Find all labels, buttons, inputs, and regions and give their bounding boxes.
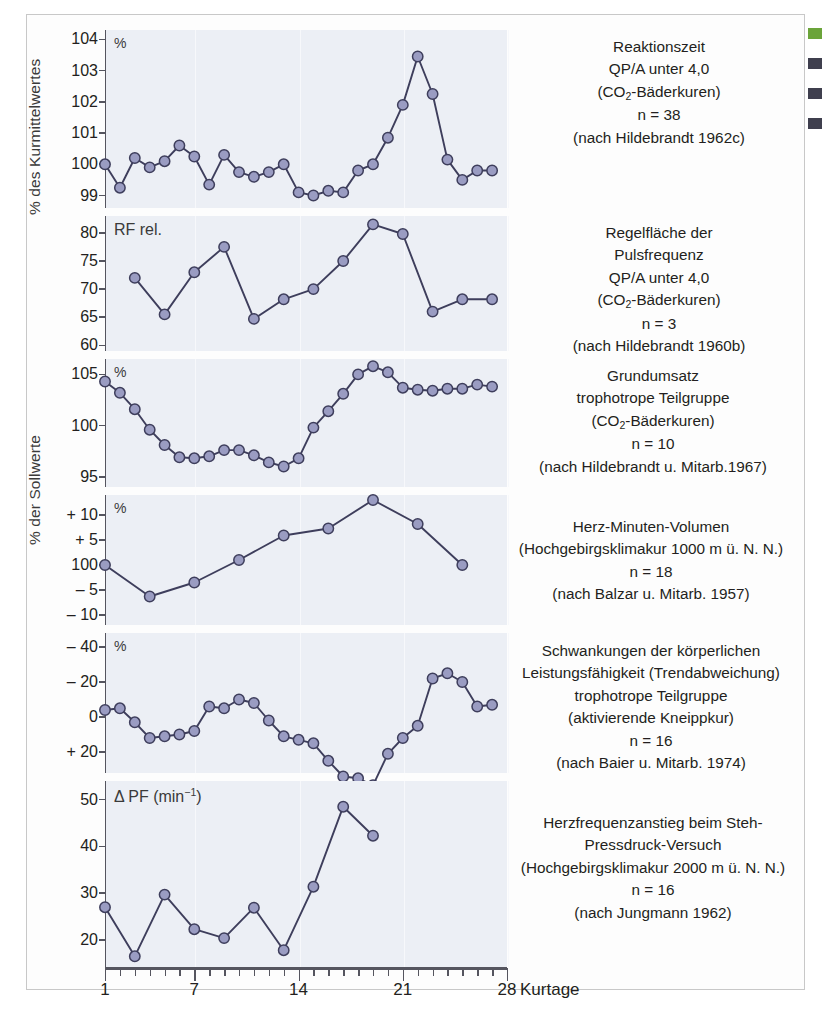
page-edge-strip — [806, 14, 833, 990]
y-tick-label: 99 — [40, 188, 98, 204]
y-tick-label: 20 — [40, 932, 98, 948]
y-tick-mark — [99, 846, 106, 848]
y-tick-label: 30 — [40, 885, 98, 901]
y-tick-label: 70 — [40, 281, 98, 297]
panel-caption: Regelfläche derPulsfrequenzQP/A unter 4,… — [512, 222, 806, 358]
y-tick-mark — [99, 614, 106, 616]
edge-fragment-2 — [808, 58, 822, 69]
y-tick-mark — [99, 316, 106, 318]
x-tick-minor — [373, 968, 374, 976]
y-tick-label: – 20 — [40, 674, 98, 690]
y-tick-label: – 5 — [40, 582, 98, 598]
caption-line: Pulsfrequenz — [512, 244, 806, 266]
y-tick-mark — [99, 892, 106, 894]
panel-caption: Grundumsatztrophotrope Teilgruppe(CO2-Bä… — [500, 365, 806, 478]
caption-line: QP/A unter 4,0 — [512, 58, 806, 80]
gridline — [195, 633, 196, 773]
y-tick-label: 100 — [40, 418, 98, 434]
caption-line: Leistungsfähigkeit (Trendabweichung) — [496, 662, 806, 684]
gridline — [300, 359, 301, 487]
gridline — [404, 781, 405, 967]
x-axis-title: Kurtage — [520, 980, 580, 1000]
gridline — [195, 495, 196, 625]
caption-line: n = 16 — [500, 879, 806, 901]
y-tick-mark — [99, 260, 106, 262]
y-tick-mark — [99, 799, 106, 801]
panel-unit-label: RF rel. — [114, 221, 162, 239]
caption-line: (Hochgebirgsklimakur 1000 m ü. N. N.) — [496, 538, 806, 560]
x-tick-minor — [209, 968, 210, 976]
x-tick-label: 1 — [85, 980, 125, 1000]
gridline — [404, 495, 405, 625]
y-tick-mark — [99, 539, 106, 541]
gridline — [300, 30, 301, 208]
y-tick-mark — [99, 232, 106, 234]
caption-line: (nach Hildebrandt u. Mitarb.1967) — [500, 456, 806, 478]
caption-line: trophotrope Teilgruppe — [500, 387, 806, 409]
plot-area — [105, 216, 507, 351]
x-tick-minor — [313, 968, 314, 976]
x-tick-minor — [492, 968, 493, 976]
caption-line: (nach Baier u. Mitarb. 1974) — [496, 752, 806, 774]
gridline — [195, 359, 196, 487]
y-tick-mark — [99, 101, 106, 103]
x-tick-minor — [150, 968, 151, 976]
plot-area — [105, 30, 507, 208]
y-tick-mark — [99, 39, 106, 41]
y-tick-label: 101 — [40, 125, 98, 141]
y-tick-mark — [99, 345, 106, 347]
caption-line: QP/A unter 4,0 — [512, 267, 806, 289]
gridline — [508, 216, 509, 351]
figure-root: % des Kurmittelwertes % der Sollwerte %1… — [0, 0, 833, 1027]
x-tick-minor — [477, 968, 478, 976]
y-tick-mark — [99, 646, 106, 648]
y-tick-label: 60 — [40, 337, 98, 353]
y-tick-label: 103 — [40, 63, 98, 79]
gridline — [404, 633, 405, 773]
x-tick-minor — [135, 968, 136, 976]
gridline — [404, 216, 405, 351]
y-tick-label: 75 — [40, 253, 98, 269]
y-tick-mark — [99, 716, 106, 718]
plot-area — [105, 495, 507, 625]
caption-line: n = 10 — [500, 433, 806, 455]
y-tick-label: 80 — [40, 225, 98, 241]
plot-area — [105, 633, 507, 773]
x-tick-minor — [120, 968, 121, 976]
x-tick-minor — [433, 968, 434, 976]
y-tick-mark — [99, 374, 106, 376]
panel-unit-label: % — [114, 364, 126, 380]
x-tick-minor — [388, 968, 389, 976]
x-tick-minor — [343, 968, 344, 976]
y-tick-label: 105 — [40, 366, 98, 382]
x-tick-minor — [239, 968, 240, 976]
gridline — [195, 781, 196, 967]
y-tick-mark — [99, 195, 106, 197]
panel-unit-label: % — [114, 500, 126, 516]
gridline — [195, 30, 196, 208]
caption-line: n = 38 — [512, 104, 806, 126]
caption-line: Grundumsatz — [500, 365, 806, 387]
y-tick-label: – 40 — [40, 639, 98, 655]
y-tick-label: 100 — [40, 156, 98, 172]
x-tick-minor — [269, 968, 270, 976]
y-tick-mark — [99, 288, 106, 290]
gridline — [300, 216, 301, 351]
y-tick-mark — [99, 163, 106, 165]
y-tick-label: 100 — [40, 557, 98, 573]
y-tick-label: 50 — [40, 792, 98, 808]
gridline — [404, 30, 405, 208]
y-tick-mark — [99, 589, 106, 591]
y-tick-mark — [99, 681, 106, 683]
caption-line: (nach Balzar u. Mitarb. 1957) — [496, 583, 806, 605]
y-tick-mark — [99, 564, 106, 566]
x-tick-minor — [462, 968, 463, 976]
x-tick-minor — [284, 968, 285, 976]
x-tick-minor — [418, 968, 419, 976]
x-tick-minor — [179, 968, 180, 976]
caption-line: Pressdruck-Versuch — [500, 834, 806, 856]
caption-line: Regelfläche der — [512, 222, 806, 244]
panel-unit-label: % — [114, 638, 126, 654]
caption-line: (nach Hildebrandt 1962c) — [512, 127, 806, 149]
x-tick-minor — [224, 968, 225, 976]
